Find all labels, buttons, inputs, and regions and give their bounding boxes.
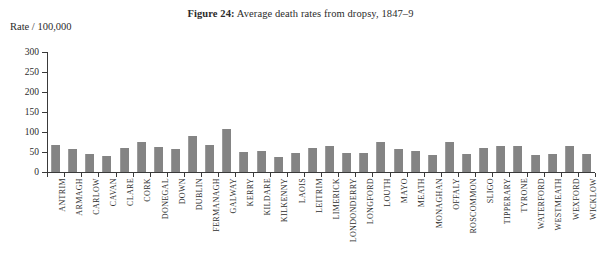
x-axis-tick-label: KILDARE [264,178,272,216]
x-axis-tick [492,173,493,177]
x-axis-tick [338,173,339,177]
bar [445,142,454,172]
x-axis-tick [150,173,151,177]
x-axis-tick [527,173,528,177]
x-axis-tick-label: TYRONE [521,178,529,213]
y-axis-title: Rate / 100,000 [10,21,72,32]
bar [188,136,197,172]
x-axis-tick [184,173,185,177]
x-axis-tick [321,173,322,177]
bar [239,152,248,172]
x-axis-tick [201,173,202,177]
x-axis-tick-label: DOWN [179,178,187,204]
x-axis-tick-label: LOUTH [384,178,392,207]
bar [51,145,60,172]
bar [222,129,231,172]
figure-number: Figure 24: [187,8,234,19]
bar [291,153,300,172]
bar [565,146,574,172]
y-axis-tick [42,172,47,173]
bar [513,146,522,172]
x-axis-tick [116,173,117,177]
figure-caption: Figure 24: Average death rates from drop… [0,8,601,19]
x-axis-tick [167,173,168,177]
x-axis-tick [270,173,271,177]
bar [154,147,163,172]
x-axis-tick [458,173,459,177]
x-axis-tick [253,173,254,177]
bar [479,148,488,172]
bar [257,151,266,172]
x-axis-tick [390,173,391,177]
bar [376,142,385,172]
x-axis-tick [595,173,596,177]
bar [205,145,214,172]
x-axis-tick-label: LIMERICK [333,178,341,219]
x-axis-tick [304,173,305,177]
y-axis-tick [42,112,47,113]
x-axis-tick [98,173,99,177]
y-axis-tick-label: 200 [0,88,39,97]
bar [496,146,505,172]
x-axis-tick-label: KERRY [247,178,255,206]
x-axis-tick-label: CLARE [127,178,135,206]
x-axis-tick-label: OFFALY [453,178,461,210]
x-axis-tick-label: DUBLIN [196,178,204,210]
y-axis-tick-label: 150 [0,108,39,117]
y-axis-tick-label: 250 [0,68,39,77]
bar [531,155,540,172]
y-axis-tick-label: 0 [0,168,39,177]
y-axis-tick [42,132,47,133]
x-axis-tick [64,173,65,177]
x-axis-tick-label: LONGFORD [367,178,375,224]
bar [137,142,146,172]
bar [582,154,591,172]
bar [171,149,180,172]
x-axis-tick-label: WEXFORD [573,178,581,220]
x-axis-tick-label: ARMAGH [76,178,84,216]
y-axis-tick-label: 50 [0,148,39,157]
x-axis-tick-label: CORK [144,178,152,202]
y-axis-tick [42,52,47,53]
x-axis-tick-label: ANTRIM [59,178,67,212]
x-axis-labels: ANTRIMARMAGHCARLOWCAVANCLARECORKDONEGALD… [47,178,595,273]
x-axis-tick-label: LONDONDERRY [350,178,358,242]
x-axis-tick-label: WICKLOW [590,178,598,220]
x-axis-tick [81,173,82,177]
x-axis-tick-label: SLIGO [487,178,495,203]
x-axis-tick [424,173,425,177]
x-axis-tick-label: TIPPERARY [504,178,512,224]
x-axis-tick-label: GALWAY [230,178,238,213]
y-axis-tick-label: 100 [0,128,39,137]
x-axis-tick-label: WATERFORD [538,178,546,229]
bar [325,146,334,172]
x-axis-tick [544,173,545,177]
bar [342,153,351,172]
y-axis-tick [42,92,47,93]
bar [120,148,129,172]
bar [102,156,111,172]
x-axis-tick-label: MONAGHAN [436,178,444,228]
x-axis-tick [235,173,236,177]
x-axis-tick [561,173,562,177]
bar [411,151,420,172]
x-axis-tick [475,173,476,177]
figure-title-text: Average death rates from dropsy, 1847–9 [237,8,414,19]
x-axis-tick [218,173,219,177]
bar [85,154,94,172]
bar [394,149,403,172]
x-axis-tick-label: CARLOW [93,178,101,215]
bar [68,149,77,172]
x-axis-tick [509,173,510,177]
x-axis-tick-label: DONEGAL [162,178,170,219]
bar [428,155,437,172]
x-axis-tick-label: LEITRIM [316,178,324,213]
y-axis-tick [42,152,47,153]
bar [274,157,283,172]
x-axis-tick-label: MEATH [418,178,426,207]
bar [359,153,368,172]
y-axis-tick [42,72,47,73]
bars-container [47,52,595,172]
x-axis-tick-label: WESTMEATH [555,178,563,230]
x-axis-tick [133,173,134,177]
